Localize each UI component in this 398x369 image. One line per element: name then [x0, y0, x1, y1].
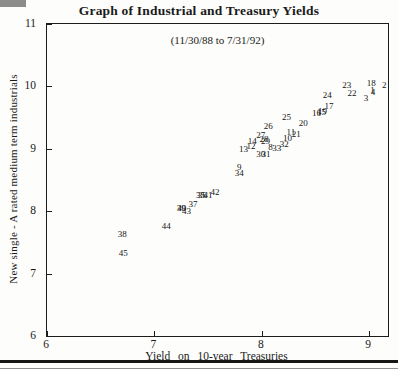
- data-point-label: 44: [162, 221, 171, 230]
- data-point-label: 24: [323, 90, 332, 99]
- data-point-label: 2: [382, 81, 387, 90]
- y-tick-label: 7: [30, 267, 36, 279]
- data-point-label: 20: [299, 118, 308, 127]
- data-point-label: 34: [235, 168, 244, 177]
- data-point-label: 4: [371, 88, 376, 97]
- data-point-label: 22: [348, 89, 357, 98]
- y-tick-labels: 67891011: [0, 23, 40, 335]
- data-point-label: 42: [211, 187, 220, 196]
- x-tick-label: 8: [258, 338, 264, 350]
- data-point-label: 38: [118, 230, 127, 239]
- page-divider-rule: [0, 360, 398, 363]
- plot-area: (11/30/88 to 7/31/92) 123489101112131415…: [46, 23, 389, 337]
- y-tick-mark: [47, 336, 52, 337]
- x-tick-mark: [369, 331, 370, 336]
- data-point-label: 29: [261, 137, 270, 146]
- data-point-label: 25: [282, 112, 291, 121]
- y-tick-mark: [47, 211, 52, 212]
- y-tick-mark: [47, 274, 52, 275]
- data-point-label: 3: [364, 94, 369, 103]
- y-tick-label: 9: [30, 142, 36, 154]
- data-point-label: 45: [119, 249, 128, 258]
- data-point-label: 21: [292, 130, 301, 139]
- x-tick-label: 6: [43, 338, 49, 350]
- data-point-label: 43: [182, 206, 191, 215]
- y-tick-label: 11: [25, 17, 36, 29]
- chart-subtitle: (11/30/88 to 7/31/92): [47, 34, 388, 46]
- data-point-label: 18: [367, 78, 376, 87]
- y-tick-mark: [47, 24, 52, 25]
- y-tick-label: 10: [25, 79, 37, 91]
- x-tick-label: 7: [151, 338, 157, 350]
- x-tick-label: 9: [365, 338, 371, 350]
- y-tick-mark: [47, 149, 52, 150]
- chart-title: Graph of Industrial and Treasury Yields: [0, 3, 398, 19]
- data-point-label: 33: [272, 144, 281, 153]
- y-tick-label: 8: [30, 204, 36, 216]
- data-point-label: 23: [342, 81, 351, 90]
- x-tick-mark: [154, 331, 155, 336]
- x-tick-mark: [262, 331, 263, 336]
- data-point-label: 19: [318, 107, 327, 116]
- y-tick-label: 6: [30, 329, 36, 341]
- data-point-label: 31: [262, 149, 271, 158]
- data-point-label: 13: [239, 144, 248, 153]
- y-tick-mark: [47, 86, 52, 87]
